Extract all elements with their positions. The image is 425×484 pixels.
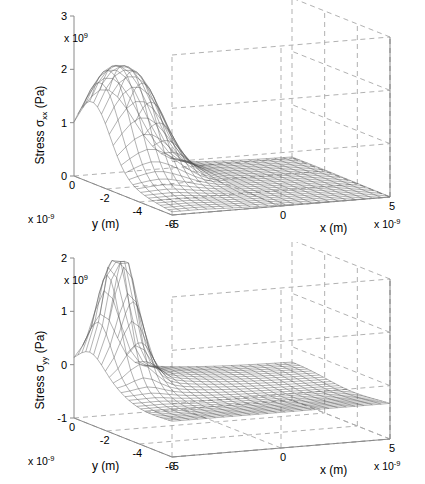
x-axis-label-xx: x (m) (320, 221, 347, 235)
tick-label: -5 (169, 460, 179, 472)
figure-root: 32100-2-4-6-505 x 109 x 10-9 x 10-9 y (m… (0, 0, 425, 484)
tick-label: -1 (57, 412, 67, 424)
axes-yy (70, 258, 390, 457)
tick-label: 0 (69, 179, 75, 191)
y-axis-label-yy: y (m) (92, 459, 119, 473)
tick-label: 5 (389, 442, 395, 454)
surface-plot-stress-xx: 32100-2-4-6-505 x 109 x 10-9 x 10-9 y (m… (0, 0, 425, 242)
tick-label: -4 (132, 205, 142, 217)
z-axis-label-yy: Stress σyy (Pa) (33, 331, 49, 410)
plot-svg-yy: 210-10-2-4-6-505 x 109 x 10-9 x 10-9 y (… (0, 242, 425, 484)
tick-label: 0 (61, 170, 67, 182)
y-axis-label-xx: y (m) (92, 217, 119, 231)
tick-label: 0 (280, 209, 286, 221)
mesh-surface-yy (74, 261, 390, 422)
z-exponent-label-xx: x 109 (64, 31, 88, 44)
tick-label: 3 (61, 10, 67, 22)
tick-label: -2 (100, 434, 110, 446)
tick-label: 2 (61, 252, 67, 264)
y-exponent-label-xx: x 10-9 (28, 212, 55, 225)
tick-label: -4 (132, 447, 142, 459)
tick-label: -5 (169, 218, 179, 230)
z-exponent-label-yy: x 109 (64, 273, 88, 286)
tick-label: 0 (69, 421, 75, 433)
x-axis-label-yy: x (m) (320, 463, 347, 477)
tick-label: -2 (100, 192, 110, 204)
z-axis-label-xx: Stress σxx (Pa) (33, 86, 49, 165)
tick-label: 1 (61, 117, 67, 129)
x-exponent-label-yy: x 10-9 (374, 459, 401, 472)
plot-svg-xx: 32100-2-4-6-505 x 109 x 10-9 x 10-9 y (m… (0, 0, 425, 242)
tick-labels-xx: 32100-2-4-6-505 (61, 10, 395, 230)
y-exponent-label-yy: x 10-9 (28, 454, 55, 467)
tick-labels-yy: 210-10-2-4-6-505 (57, 252, 395, 472)
mesh-surface-xx (74, 65, 390, 211)
tick-label: 5 (389, 200, 395, 212)
tick-label: 1 (61, 305, 67, 317)
tick-label: 2 (61, 63, 67, 75)
tick-label: 0 (61, 359, 67, 371)
x-exponent-label-xx: x 10-9 (374, 217, 401, 230)
surface-plot-stress-yy: 210-10-2-4-6-505 x 109 x 10-9 x 10-9 y (… (0, 242, 425, 484)
tick-label: 0 (280, 451, 286, 463)
